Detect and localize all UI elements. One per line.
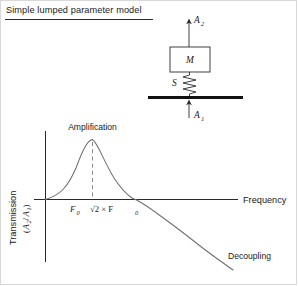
y-axis-label-ratio: ( A 2 / A 1 ) — [21, 204, 32, 233]
schematic-diagram: A 2 M S A 1 — [148, 15, 243, 122]
annotation-decoupling: Decoupling — [228, 251, 271, 261]
x-tick-sqrt2f0-sub: 0 — [135, 209, 139, 216]
spring-coil — [183, 75, 196, 94]
x-tick-sqrt2f0-label: √2 × F — [90, 204, 113, 214]
input-arrow-group: A 1 — [186, 100, 204, 123]
input-arrow-label-sub: 1 — [201, 115, 204, 122]
mass-label: M — [185, 55, 195, 65]
x-tick-f0-label: F — [69, 204, 76, 214]
transmissibility-chart: Amplification F 0 √2 × F 0 Frequency Tra… — [8, 122, 287, 270]
figure-root: Simple lumped parameter model A 2 M S — [0, 0, 298, 286]
y-ratio-denominator: A — [21, 211, 31, 218]
input-arrow-label: A — [193, 110, 200, 120]
x-tick-f0-sub: 0 — [77, 209, 81, 216]
spring-label: S — [172, 78, 177, 88]
figure-title: Simple lumped parameter model — [6, 5, 142, 15]
x-tick-sqrt2f0: √2 × F 0 — [90, 204, 139, 216]
spring-group: S — [172, 72, 196, 97]
annotation-amplification: Amplification — [68, 122, 117, 132]
output-arrow-group: A 2 — [186, 15, 205, 47]
output-arrow-label: A — [193, 15, 200, 25]
y-ratio-slash: / — [21, 217, 31, 220]
output-arrow-label-sub: 2 — [201, 20, 205, 27]
figure-canvas: Simple lumped parameter model A 2 M S — [0, 0, 298, 286]
y-axis-label-group: Transmission ( A 2 / A 1 ) — [8, 191, 32, 245]
y-ratio-close: ) — [21, 204, 31, 207]
y-axis-label: Transmission — [8, 191, 18, 245]
y-ratio-numerator: A — [21, 224, 31, 231]
x-axis-label: Frequency — [243, 195, 287, 205]
x-tick-f0: F 0 — [69, 204, 81, 216]
